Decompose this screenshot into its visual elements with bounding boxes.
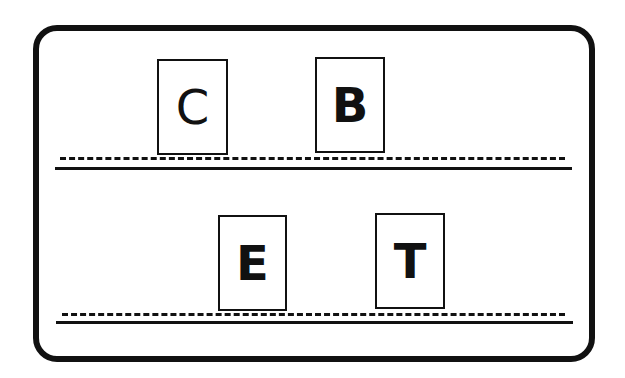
letter-tile-b[interactable]: B xyxy=(315,57,385,153)
row-2-baseline xyxy=(56,321,573,324)
tile-letter: B xyxy=(332,81,369,129)
tile-letter: E xyxy=(236,239,269,287)
row-2-dashed-guideline xyxy=(62,313,565,316)
letter-card xyxy=(33,25,595,362)
letter-tile-c[interactable]: C xyxy=(157,59,228,155)
row-1-baseline xyxy=(55,167,572,170)
tile-letter: T xyxy=(394,237,427,285)
row-1-dashed-guideline xyxy=(60,157,565,160)
tile-letter: C xyxy=(176,83,210,131)
letter-tile-e[interactable]: E xyxy=(218,215,287,311)
letter-tile-t[interactable]: T xyxy=(375,213,445,309)
